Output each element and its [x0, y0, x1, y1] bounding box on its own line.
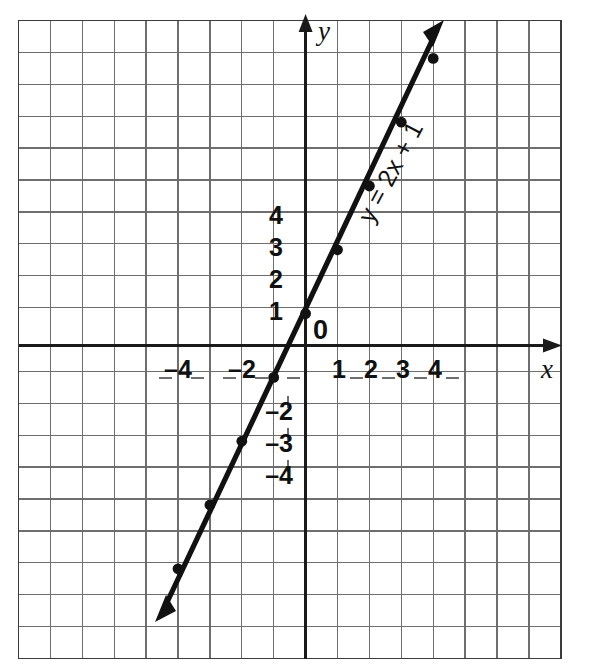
data-point: [173, 563, 184, 574]
y-axis-label: y: [315, 16, 330, 46]
origin-label: 0: [313, 315, 328, 345]
data-point: [332, 244, 343, 255]
plotted-line: [162, 30, 437, 613]
x-tick-labels: –4 –2 1 2 3 4: [164, 355, 442, 383]
y-axis: [299, 14, 313, 659]
arrow-up-icon: [299, 14, 313, 32]
data-point: [300, 308, 311, 319]
x-axis-label: x: [540, 354, 553, 384]
data-point: [205, 500, 216, 511]
y-tick-label: –4: [265, 461, 293, 489]
x-tick-label: –4: [164, 355, 192, 383]
data-point: [268, 372, 279, 383]
x-tick-label: 2: [364, 355, 378, 383]
y-tick-label: 3: [269, 233, 283, 261]
y-tick-label: –2: [265, 397, 293, 425]
graph-figure: 4 3 2 1 –2 –3 –4 –4 –2 1 2 3 4 0 y x y =…: [0, 0, 599, 672]
y-tick-label: –3: [265, 429, 293, 457]
x-tick-label: 1: [332, 355, 346, 383]
x-tick-label: 4: [428, 355, 442, 383]
data-point: [236, 436, 247, 447]
arrow-right-icon: [543, 339, 562, 353]
x-tick-label: 3: [396, 355, 410, 383]
arrow-down-left-icon: [155, 595, 176, 622]
coordinate-plane-svg: 4 3 2 1 –2 –3 –4 –4 –2 1 2 3 4 0 y x y =…: [0, 0, 599, 672]
y-tick-label: 1: [269, 297, 283, 325]
axis-tick-dashes: [159, 378, 459, 472]
y-tick-label: 4: [269, 201, 283, 229]
data-point: [428, 53, 439, 64]
y-tick-label: 2: [269, 265, 283, 293]
x-tick-label: –2: [228, 355, 256, 383]
